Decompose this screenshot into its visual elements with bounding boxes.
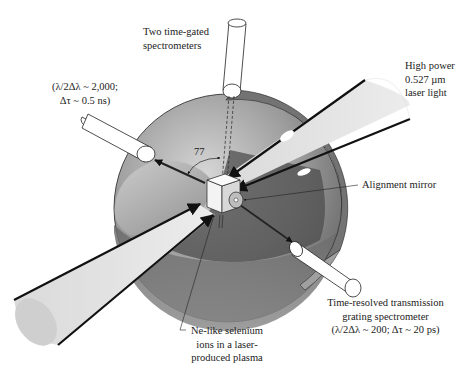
label-transmission-spectrometer: Time-resolved transmission grating spect… [318, 296, 453, 337]
label-line: Two time-gated [143, 25, 209, 39]
label-line: spectrometers [143, 39, 209, 53]
label-line: Time-resolved transmission [318, 296, 453, 310]
label-line: produced plasma [184, 351, 270, 365]
label-two-time-gated-spectrometers: Two time-gated spectrometers [143, 25, 209, 52]
label-line: 0.527 µm [405, 73, 455, 87]
label-line: High power [405, 59, 455, 73]
label-line: (λ/2Δλ ~ 200; Δτ ~ 20 ps) [318, 323, 453, 337]
label-line: Alignment mirror [362, 179, 436, 190]
label-line: laser light [405, 86, 455, 100]
label-line: Δτ ~ 0.5 ns) [40, 94, 130, 108]
label-ne-like-selenium-plasma: Ne-like selenium ions in a laser- produc… [184, 324, 270, 365]
label-resolution-left: (λ/2Δλ ~ 2,000; Δτ ~ 0.5 ns) [40, 80, 130, 107]
label-alignment-mirror: Alignment mirror [362, 178, 436, 192]
label-line: grating spectrometer [318, 310, 453, 324]
label-line: (λ/2Δλ ~ 2,000; [40, 80, 130, 94]
label-line: Ne-like selenium [184, 324, 270, 338]
label-laser-light: High power 0.527 µm laser light [405, 59, 455, 100]
label-line: 77 [194, 146, 205, 157]
label-line: ions in a laser- [184, 338, 270, 352]
label-angle-77: 77 [194, 145, 205, 159]
